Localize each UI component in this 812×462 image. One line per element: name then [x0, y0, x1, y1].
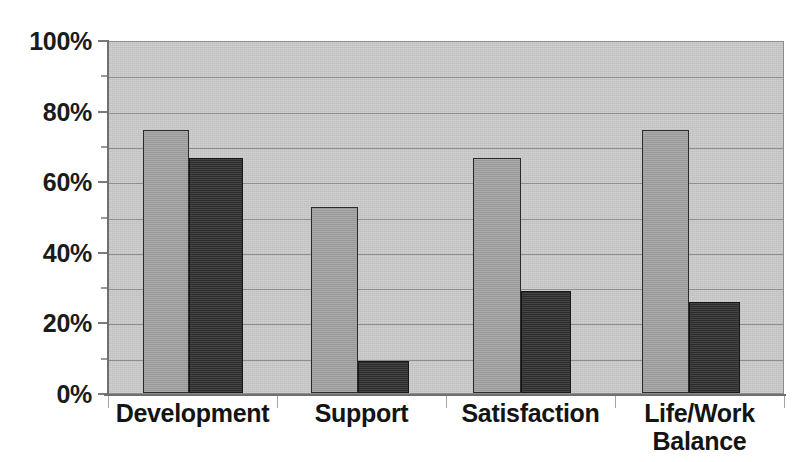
x-axis-label-text: Development: [116, 399, 270, 427]
bar-texture: [474, 159, 520, 392]
bar-life-work-balance-series-1: [642, 130, 689, 393]
bar-chart: 100% 80% 60% 40% 20% 0%: [0, 0, 812, 462]
bar-support-series-1: [311, 207, 358, 393]
y-tick-label-100: 100%: [29, 27, 92, 56]
x-axis-label-text-line2: Balance: [615, 427, 784, 455]
x-axis-label-text-line1: Life/Work: [644, 399, 755, 427]
bar-texture: [144, 131, 188, 392]
bar-satisfaction-series-2: [521, 291, 571, 393]
bar-life-work-balance-series-2: [689, 302, 740, 393]
x-axis-label-life-work-balance: Life/Work Balance: [615, 399, 784, 455]
x-axis-label-satisfaction: Satisfaction: [446, 399, 615, 427]
bar-texture: [359, 362, 408, 392]
bar-texture: [522, 292, 570, 392]
category-tick-4: [784, 396, 785, 408]
y-tick-label-80: 80%: [43, 97, 92, 126]
bar-texture: [312, 208, 357, 392]
x-axis-label-text: Support: [315, 399, 409, 427]
bar-texture: [643, 131, 688, 392]
x-axis-label-development: Development: [108, 399, 277, 427]
y-axis: 100% 80% 60% 40% 20% 0%: [0, 0, 100, 462]
y-tick-label-40: 40%: [43, 238, 92, 267]
x-axis-label-text: Satisfaction: [461, 399, 599, 427]
x-axis-line: [104, 394, 786, 396]
bar-development-series-1: [143, 130, 189, 393]
bar-development-series-2: [189, 158, 243, 393]
bar-satisfaction-series-1: [473, 158, 521, 393]
x-axis-label-support: Support: [277, 399, 446, 427]
y-tick-label-0: 0%: [56, 380, 92, 409]
bar-texture: [190, 159, 242, 392]
y-tick-label-60: 60%: [43, 168, 92, 197]
gridline-90: [109, 77, 783, 78]
gridline-80: [109, 113, 783, 114]
bar-support-series-2: [358, 361, 409, 393]
y-tick-label-20: 20%: [43, 309, 92, 338]
plot-area: [108, 41, 784, 394]
bar-texture: [690, 303, 739, 392]
